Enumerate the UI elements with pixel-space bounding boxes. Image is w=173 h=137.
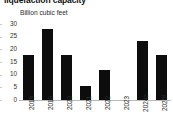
x-tick-slot: 2019 <box>38 101 57 137</box>
y-tick-label: 5 <box>13 84 17 90</box>
y-tick-label: 20 <box>10 46 17 52</box>
bar-series <box>19 24 171 100</box>
bar[interactable] <box>42 29 54 100</box>
x-tick-label: 2019 <box>48 96 54 110</box>
bar-slot <box>114 24 133 100</box>
chart-title: liquefaction capacity <box>4 0 86 5</box>
x-tick-label: 2020 <box>67 96 73 110</box>
y-tick-mark <box>0 100 2 101</box>
bar-slot <box>57 24 76 100</box>
x-tick-slot: 2023 <box>114 101 133 137</box>
bar[interactable] <box>156 55 168 100</box>
y-tick-mark <box>0 62 2 63</box>
x-tick-slot: 2022 <box>95 101 114 137</box>
x-tick-slot: 2020 <box>57 101 76 137</box>
y-tick-label: 30 <box>10 21 17 27</box>
y-tick-mark <box>0 37 2 38</box>
bar-slot <box>19 24 38 100</box>
x-tick-slot: 2018 <box>19 101 38 137</box>
bar-slot <box>152 24 171 100</box>
chart-container: liquefaction capacity Billion cubic feet… <box>0 0 173 137</box>
y-axis-labels: 051015202530 <box>0 24 17 100</box>
bar-slot <box>133 24 152 100</box>
bar-slot <box>38 24 57 100</box>
bar[interactable] <box>137 41 149 100</box>
x-tick-label: 2024e <box>143 94 149 112</box>
x-tick-label: 2021 <box>86 96 92 110</box>
y-tick-mark <box>0 49 2 50</box>
x-tick-label: 2025f <box>162 95 168 111</box>
x-tick-slot: 2024e <box>133 101 152 137</box>
y-tick-mark <box>0 24 2 25</box>
plot-area <box>19 24 171 100</box>
y-tick-label: 10 <box>10 71 17 77</box>
bar-slot <box>95 24 114 100</box>
x-tick-slot: 2021 <box>76 101 95 137</box>
x-tick-label: 2023 <box>124 96 130 110</box>
y-tick-mark <box>0 87 2 88</box>
x-axis-labels: 2018201920202021202220232024e2025f <box>19 101 171 137</box>
y-tick-label: 15 <box>10 59 17 65</box>
x-tick-label: 2018 <box>29 96 35 110</box>
x-tick-label: 2022 <box>105 96 111 110</box>
chart-subtitle: Billion cubic feet <box>20 9 68 17</box>
y-tick-label: 25 <box>10 33 17 39</box>
bar-slot <box>76 24 95 100</box>
y-tick-mark <box>0 75 2 76</box>
y-tick-label: 0 <box>13 97 17 103</box>
bar[interactable] <box>23 55 35 100</box>
x-tick-slot: 2025f <box>152 101 171 137</box>
bar[interactable] <box>61 55 73 100</box>
